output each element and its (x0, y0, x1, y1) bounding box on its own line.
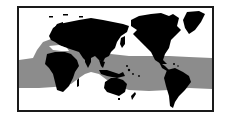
map-figure (0, 0, 227, 124)
world-map (19, 8, 212, 110)
map-frame (17, 6, 214, 112)
